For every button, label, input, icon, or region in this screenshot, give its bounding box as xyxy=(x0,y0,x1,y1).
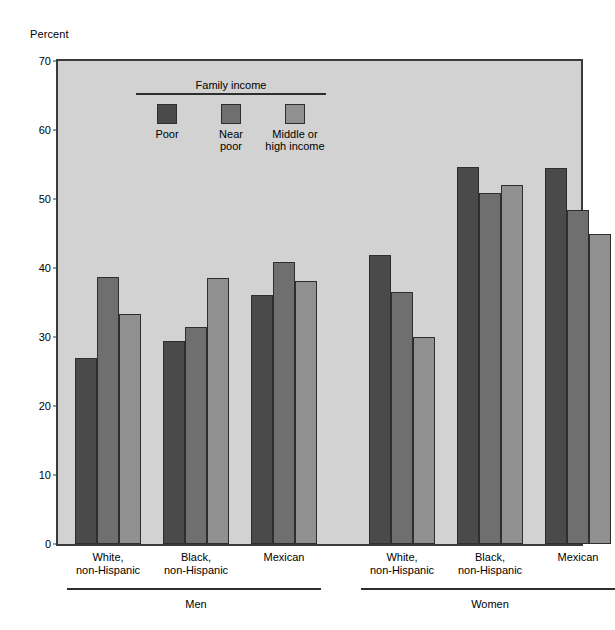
bar xyxy=(457,167,479,544)
y-axis-tick-mark xyxy=(53,130,58,131)
group-label: Women xyxy=(471,598,509,610)
legend-swatch xyxy=(221,104,241,124)
bar xyxy=(119,314,141,544)
bar xyxy=(479,193,501,544)
legend-title: Family income xyxy=(136,79,326,91)
bar xyxy=(391,292,413,544)
y-axis-tick-label: 30 xyxy=(11,331,58,343)
legend-item: Middle or high income xyxy=(264,104,326,152)
legend-item: Poor xyxy=(136,104,198,140)
bar xyxy=(501,185,523,544)
bar xyxy=(207,278,229,544)
x-axis-label: White, non-Hispanic xyxy=(370,551,434,576)
y-axis-tick-mark xyxy=(53,337,58,338)
y-axis-tick-label: 50 xyxy=(11,193,58,205)
y-axis-tick-label: 60 xyxy=(11,124,58,136)
group-label: Men xyxy=(185,598,206,610)
bar xyxy=(97,277,119,544)
bar xyxy=(589,234,611,544)
y-axis-tick-mark xyxy=(53,61,58,62)
bar xyxy=(251,295,273,544)
y-axis-tick-label: 70 xyxy=(11,55,58,67)
y-axis-tick-label: 20 xyxy=(11,400,58,412)
bar xyxy=(567,210,589,544)
x-axis-label: Mexican xyxy=(558,551,599,564)
x-axis-label: Black, non-Hispanic xyxy=(164,551,228,576)
bar xyxy=(273,262,295,544)
legend-label: Middle or high income xyxy=(265,128,324,152)
bar xyxy=(163,341,185,544)
legend-swatch xyxy=(157,104,177,124)
y-axis-tick-label: 10 xyxy=(11,469,58,481)
plot-area: 010203040506070 Family income PoorNear p… xyxy=(56,59,583,546)
x-axis-label: Black, non-Hispanic xyxy=(458,551,522,576)
bar xyxy=(413,337,435,544)
group-divider xyxy=(67,588,321,590)
y-axis-tick-mark xyxy=(53,406,58,407)
legend-swatch xyxy=(285,104,305,124)
y-axis-tick-mark xyxy=(53,199,58,200)
legend-item: Near poor xyxy=(200,104,262,152)
x-axis-label: White, non-Hispanic xyxy=(76,551,140,576)
legend-label: Poor xyxy=(155,128,178,140)
y-axis-title: Percent xyxy=(30,28,69,40)
x-axis-group-labels: MenWomen xyxy=(56,588,583,628)
y-axis-tick-label: 0 xyxy=(11,538,58,550)
x-axis-label: Mexican xyxy=(264,551,305,564)
legend-label: Near poor xyxy=(219,128,243,152)
x-axis-labels: White, non-HispanicBlack, non-HispanicMe… xyxy=(56,551,583,591)
y-axis-tick-label: 40 xyxy=(11,262,58,274)
y-axis-tick-mark xyxy=(53,268,58,269)
group-divider xyxy=(361,588,615,590)
bar xyxy=(545,168,567,544)
bar xyxy=(369,255,391,544)
y-axis-tick-mark xyxy=(53,475,58,476)
bar xyxy=(295,281,317,544)
bar xyxy=(185,327,207,544)
bar xyxy=(75,358,97,544)
legend-divider xyxy=(136,93,326,95)
y-axis-tick-mark xyxy=(53,544,58,545)
legend: Family income PoorNear poorMiddle or hig… xyxy=(136,79,326,152)
